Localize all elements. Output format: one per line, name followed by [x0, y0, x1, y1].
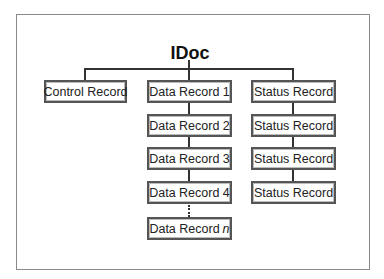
status-record-label: Status Record — [254, 119, 333, 133]
data-record-box-2: Data Record 2 — [147, 114, 232, 137]
data-record-label: Data Record 1 — [149, 85, 230, 99]
data-record-box-3: Data Record 3 — [147, 147, 232, 170]
data-link-1-2 — [188, 103, 190, 114]
data-record-box-1: Data Record 1 — [147, 80, 232, 103]
status-record-box-4: Status Record — [251, 181, 336, 204]
data-link-2-3 — [188, 137, 190, 147]
control-record-box: Control Record — [44, 80, 127, 103]
idoc-title: IDoc — [160, 43, 220, 64]
status-record-label: Status Record — [254, 85, 333, 99]
data-record-label: Data Record 4 — [149, 186, 230, 200]
data-record-n-suffix: n — [223, 222, 230, 236]
data-ellipsis-connector — [188, 205, 190, 217]
control-record-label: Control Record — [43, 85, 127, 99]
data-record-label: Data Record 2 — [149, 119, 230, 133]
data-link-3-4 — [188, 170, 190, 181]
status-record-box-1: Status Record — [251, 80, 336, 103]
status-link-2-3 — [292, 137, 294, 147]
control-branch-connector — [84, 68, 86, 80]
status-record-label: Status Record — [254, 186, 333, 200]
data-record-box-n: Data Recordn — [147, 217, 232, 240]
status-branch-connector — [292, 68, 294, 80]
data-record-label: Data Record 3 — [149, 152, 230, 166]
status-link-1-2 — [292, 103, 294, 114]
status-record-label: Status Record — [254, 152, 333, 166]
data-record-n-prefix: Data Record — [149, 222, 219, 236]
data-branch-connector — [188, 68, 190, 80]
status-link-3-4 — [292, 170, 294, 181]
data-record-box-4: Data Record 4 — [147, 181, 232, 204]
status-record-box-2: Status Record — [251, 114, 336, 137]
status-record-box-3: Status Record — [251, 147, 336, 170]
